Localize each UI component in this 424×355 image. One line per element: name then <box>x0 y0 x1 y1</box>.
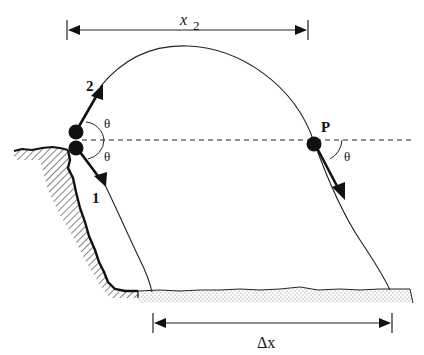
cliff-hatch <box>14 147 138 298</box>
x2-dimension <box>67 20 308 40</box>
label-theta-lower: θ <box>104 149 110 164</box>
trajectory-1 <box>104 183 152 292</box>
x2-label-var: x <box>179 11 187 28</box>
label-theta-p: θ <box>344 149 350 164</box>
angle-arc-lower <box>88 140 104 159</box>
label-theta-upper: θ <box>104 116 110 131</box>
trajectory-2 <box>100 46 390 290</box>
angle-arc-p <box>330 140 342 159</box>
projectile-diagram: x 2 2 1 P θ θ θ <box>0 0 424 355</box>
label-point-p: P <box>321 119 330 135</box>
delta-x-dimension <box>153 313 392 333</box>
angle-arc-upper <box>86 122 104 140</box>
ball-p <box>307 137 322 152</box>
delta-x-label: Δx <box>257 334 275 351</box>
ball-1 <box>69 141 84 156</box>
velocity-arrow-p <box>317 148 345 200</box>
label-ball-1: 1 <box>92 190 100 206</box>
ball-2 <box>69 125 84 140</box>
x2-label-sub: 2 <box>193 18 200 33</box>
ground-stipple <box>138 288 413 303</box>
label-ball-2: 2 <box>86 78 94 94</box>
